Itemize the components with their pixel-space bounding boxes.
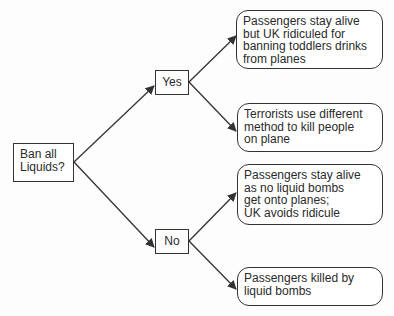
outcome-line: get onto planes; (244, 194, 376, 207)
outcome-line: UK avoids ridicule (244, 207, 376, 220)
outcome-line: liquid bombs (244, 285, 376, 298)
branch-node-no: No (155, 229, 189, 254)
outcome-line: Terrorists use different (244, 108, 376, 121)
edge-no-to-outcome-1 (189, 193, 236, 241)
edge-root-to-no (74, 162, 154, 247)
outcome-line: Passengers stay alive (243, 15, 376, 28)
outcome-node-no-avoids-ridicule: Passengers stay alive as no liquid bombs… (237, 164, 383, 225)
diagram-canvas: Ban all Liquids? Yes No Passengers stay … (0, 0, 394, 316)
branch-label-yes: Yes (162, 76, 182, 89)
outcome-line: from planes (243, 53, 376, 66)
outcome-node-yes-ridiculed: Passengers stay alive but UK ridiculed f… (236, 10, 383, 69)
edge-yes-to-outcome-1 (189, 36, 236, 82)
outcome-line: on plane (244, 133, 376, 146)
edge-yes-to-outcome-2 (189, 82, 236, 131)
outcome-line: banning toddlers drinks (243, 40, 376, 53)
root-node-ban-all-liquids: Ban all Liquids? (13, 143, 74, 182)
root-node-line: Liquids? (20, 161, 67, 174)
outcome-node-yes-different-method: Terrorists use different method to kill … (237, 103, 383, 152)
branch-label-no: No (164, 235, 179, 248)
edge-no-to-outcome-2 (189, 241, 236, 289)
edge-root-to-yes (74, 86, 154, 162)
outcome-node-no-killed: Passengers killed by liquid bombs (237, 267, 383, 306)
outcome-line: Passengers killed by (244, 272, 376, 285)
root-node-line: Ban all (20, 148, 67, 161)
outcome-line: Passengers stay alive (244, 169, 376, 182)
branch-node-yes: Yes (155, 70, 189, 95)
